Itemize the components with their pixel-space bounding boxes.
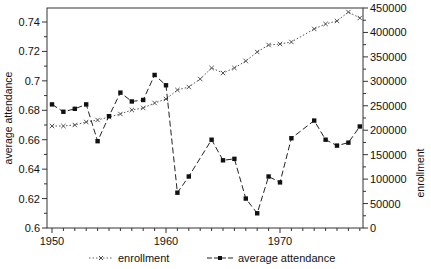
data-point-marker (312, 118, 316, 122)
data-point-marker (323, 138, 327, 142)
average-attendance-series (50, 73, 362, 216)
right-tick-label: 100000 (370, 173, 407, 185)
x-tick-label: 1960 (154, 235, 178, 247)
left-y-axis: 0.60.620.640.660.680.70.720.74 (19, 16, 47, 234)
left-tick-label: 0.7 (25, 75, 40, 87)
data-point-marker (73, 107, 77, 111)
right-tick-label: 250000 (370, 100, 407, 112)
data-point-marker (50, 102, 54, 106)
data-point-marker (141, 98, 145, 102)
right-tick-label: 300000 (370, 75, 407, 87)
data-point-marker (278, 180, 282, 184)
legend: enrollment average attendance (89, 252, 335, 264)
right-tick-label: 50000 (370, 198, 401, 210)
left-tick-label: 0.72 (19, 45, 40, 57)
right-axis-title: enrollment (414, 148, 426, 197)
data-point-marker (358, 124, 362, 128)
left-tick-label: 0.62 (19, 193, 40, 205)
left-tick-label: 0.66 (19, 134, 40, 146)
data-point-marker (118, 90, 122, 94)
data-point-marker (255, 211, 259, 215)
data-point-marker (266, 174, 270, 178)
data-point-marker (61, 110, 65, 114)
dual-axis-line-chart: 0.60.620.640.660.680.70.720.74 050000100… (0, 0, 431, 269)
right-tick-label: 450000 (370, 2, 407, 14)
right-tick-label: 150000 (370, 149, 407, 161)
data-point-marker (289, 136, 293, 140)
left-tick-label: 0.64 (19, 163, 40, 175)
left-tick-label: 0.6 (25, 222, 40, 234)
enrollment-series (50, 10, 362, 128)
data-point-marker (175, 190, 179, 194)
right-y-axis: 0500001000001500002000002500003000003500… (363, 2, 407, 234)
data-point-marker (221, 158, 225, 162)
right-tick-label: 350000 (370, 51, 407, 63)
left-tick-label: 0.68 (19, 104, 40, 116)
right-tick-label: 400000 (370, 26, 407, 38)
legend-label-average-attendance: average attendance (238, 252, 335, 264)
data-point-marker (187, 174, 191, 178)
data-point-marker (335, 143, 339, 147)
legend-label-enrollment: enrollment (118, 252, 169, 264)
legend-item-average-attendance: average attendance (207, 252, 335, 264)
legend-attendance-marker-icon (218, 256, 222, 260)
data-point-marker (130, 99, 134, 103)
data-point-marker (244, 196, 248, 200)
legend-item-enrollment: enrollment (89, 252, 169, 264)
data-point-marker (107, 114, 111, 118)
right-tick-label: 200000 (370, 124, 407, 136)
data-point-marker (84, 102, 88, 106)
plot-frame (47, 8, 363, 228)
data-point-marker (209, 138, 213, 142)
right-tick-label: 0 (370, 222, 376, 234)
left-axis-title: average attendance (2, 71, 14, 164)
data-point-marker (95, 139, 99, 143)
x-axis: 195019601970 (40, 228, 360, 247)
data-point-marker (232, 157, 236, 161)
data-point-marker (164, 83, 168, 87)
data-point-marker (152, 73, 156, 77)
x-tick-label: 1970 (268, 235, 292, 247)
data-point-marker (346, 140, 350, 144)
left-tick-label: 0.74 (19, 16, 40, 28)
x-tick-label: 1950 (40, 235, 64, 247)
